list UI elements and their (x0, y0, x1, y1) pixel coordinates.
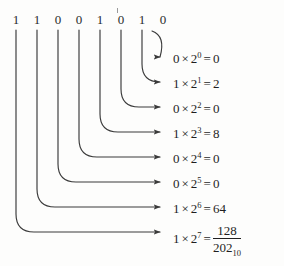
multiply-sign: × (180, 101, 191, 116)
equals-sign: = (202, 176, 213, 191)
equals-sign: = (202, 76, 213, 91)
expansion-row-2: 0×22=0 (173, 102, 219, 115)
expansion-row-4: 0×24=0 (173, 152, 219, 165)
binary-digit-2: 0 (115, 13, 127, 26)
row-exponent: 4 (197, 150, 201, 160)
multiply-sign: × (180, 201, 191, 216)
row-result: 64 (213, 201, 226, 216)
connector-lines (16, 30, 162, 232)
equals-sign: = (202, 151, 213, 166)
equals-sign: = (202, 231, 213, 246)
row-result: 0 (213, 176, 220, 191)
row-bit: 1 (173, 231, 180, 246)
expansion-row-3: 1×23=8 (173, 127, 219, 140)
total-value: 202 (213, 240, 233, 255)
connector-bit-0 (16, 30, 160, 232)
expansion-row-5: 0×25=0 (173, 177, 219, 190)
binary-digit-4: 0 (73, 13, 85, 26)
row-bit: 1 (173, 201, 180, 216)
multiply-sign: × (180, 151, 191, 166)
row-bit: 1 (173, 76, 180, 91)
expansion-row-0: 0×20=0 (173, 52, 219, 65)
equals-sign: = (202, 51, 213, 66)
connector-bit-5 (121, 30, 160, 107)
row-result: 0 (213, 51, 220, 66)
multiply-sign: × (180, 51, 191, 66)
binary-digit-0: 0 (157, 13, 169, 26)
binary-digit-5: 0 (52, 13, 64, 26)
row-exponent: 5 (197, 175, 201, 185)
row-bit: 0 (173, 151, 180, 166)
sum-fraction: 12820210 (213, 224, 241, 254)
row-exponent: 2 (197, 100, 201, 110)
row-exponent: 7 (197, 230, 201, 240)
row-exponent: 6 (197, 200, 201, 210)
row-result: 0 (213, 151, 220, 166)
connector-bit-2 (58, 30, 160, 182)
row-bit: 0 (173, 51, 180, 66)
last-term-result: 128 (213, 224, 241, 239)
expansion-row-6: 1×26=64 (173, 202, 226, 215)
row-result: 0 (213, 101, 220, 116)
expansion-row-7: 1×27=12820210 (173, 225, 241, 255)
binary-digit-3: 1 (94, 13, 106, 26)
binary-conversion-diagram (0, 0, 284, 266)
equals-sign: = (202, 201, 213, 216)
multiply-sign: × (180, 176, 191, 191)
connector-bit-3 (79, 30, 160, 157)
row-bit: 0 (173, 176, 180, 191)
row-bit: 0 (173, 101, 180, 116)
total-subscript: 10 (232, 248, 241, 258)
multiply-sign: × (180, 231, 191, 246)
row-bit: 1 (173, 126, 180, 141)
expansion-row-1: 1×21=2 (173, 77, 219, 90)
binary-digit-1: 1 (136, 13, 148, 26)
multiply-sign: × (180, 76, 191, 91)
row-exponent: 3 (197, 125, 201, 135)
connector-bit-7 (152, 31, 162, 57)
multiply-sign: × (180, 126, 191, 141)
row-exponent: 1 (197, 75, 201, 85)
equals-sign: = (202, 101, 213, 116)
row-result: 8 (213, 126, 220, 141)
row-result: 2 (213, 76, 220, 91)
binary-digit-6: 1 (31, 13, 43, 26)
connector-bit-6 (142, 30, 160, 82)
total-sum: 20210 (213, 239, 241, 254)
row-exponent: 0 (197, 50, 201, 60)
binary-digit-7: 1 (10, 13, 22, 26)
equals-sign: = (202, 126, 213, 141)
